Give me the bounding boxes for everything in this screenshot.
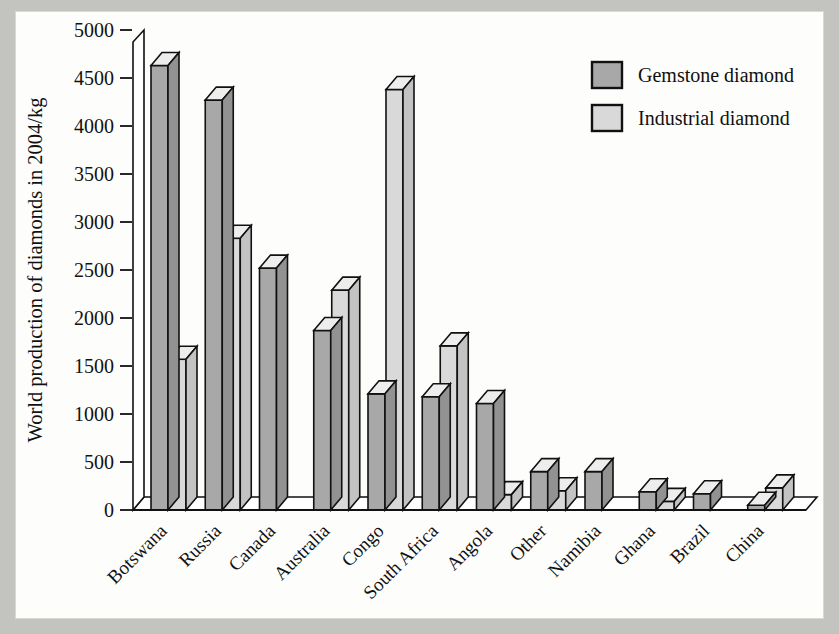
y-axis-tick-label: 2000 bbox=[74, 307, 114, 329]
y-axis-tick-label: 1500 bbox=[74, 355, 114, 377]
bar-front-face bbox=[314, 330, 331, 510]
bar-side-face bbox=[403, 77, 414, 510]
bar-front-face bbox=[151, 66, 168, 510]
bar-side-face bbox=[385, 381, 396, 510]
bar-side-face bbox=[494, 390, 505, 510]
bar-gemstone-6 bbox=[477, 390, 505, 510]
legend-label-gemstone-diamond: Gemstone diamond bbox=[638, 64, 794, 86]
bar-side-face bbox=[439, 384, 450, 510]
bar-side-face bbox=[168, 53, 179, 510]
x-axis-category-label: Other bbox=[505, 520, 551, 566]
bar-chart: 0500100015002000250030003500400045005000… bbox=[16, 12, 823, 618]
y-axis-tick-label: 5000 bbox=[74, 19, 114, 41]
y-axis-wall bbox=[133, 30, 144, 510]
bar-gemstone-1 bbox=[205, 87, 233, 510]
bar-side-face bbox=[240, 225, 251, 510]
bar-front-face bbox=[260, 268, 277, 510]
legend-label-industrial-diamond: Industrial diamond bbox=[638, 107, 790, 129]
bar-front-face bbox=[422, 397, 439, 510]
bar-gemstone-3 bbox=[314, 317, 342, 510]
x-axis-category-label: Angola bbox=[442, 520, 497, 575]
legend-swatch-industrial-diamond bbox=[592, 105, 622, 131]
x-axis-category-label: Russia bbox=[174, 520, 225, 571]
figure-page: 0500100015002000250030003500400045005000… bbox=[0, 0, 839, 634]
x-axis-category-label: China bbox=[721, 520, 768, 567]
bar-gemstone-4 bbox=[368, 381, 396, 510]
y-axis-tick-label: 4500 bbox=[74, 67, 114, 89]
bar-gemstone-8 bbox=[585, 459, 613, 510]
bar-gemstone-7 bbox=[531, 459, 559, 510]
x-axis-category-label: Botswana bbox=[103, 520, 171, 588]
bar-front-face bbox=[639, 492, 656, 510]
y-axis-tick-label: 500 bbox=[84, 451, 114, 473]
bar-side-face bbox=[277, 255, 288, 510]
bar-side-face bbox=[349, 277, 360, 510]
bar-side-face bbox=[457, 333, 468, 510]
x-axis-category-label: Ghana bbox=[609, 520, 659, 570]
bar-side-face bbox=[331, 317, 342, 510]
x-axis-category-label: Australia bbox=[269, 520, 333, 584]
x-axis-category-label: Brazil bbox=[666, 520, 714, 568]
y-axis-title: World production of diamonds in 2004/kg bbox=[24, 97, 47, 442]
y-axis-tick-label: 0 bbox=[104, 499, 114, 521]
bar-front-face bbox=[205, 100, 222, 510]
bar-front-face bbox=[368, 394, 385, 510]
figure-plate: 0500100015002000250030003500400045005000… bbox=[16, 12, 823, 618]
bar-front-face bbox=[585, 472, 602, 510]
bar-front-face bbox=[531, 472, 548, 510]
y-axis-tick-label: 3500 bbox=[74, 163, 114, 185]
chart-legend: Gemstone diamondIndustrial diamond bbox=[592, 62, 794, 131]
y-axis-tick-label: 2500 bbox=[74, 259, 114, 281]
bar-side-face bbox=[222, 87, 233, 510]
bar-gemstone-5 bbox=[422, 384, 450, 510]
legend-swatch-gemstone-diamond bbox=[592, 62, 622, 88]
bar-side-face bbox=[186, 346, 197, 510]
y-axis-tick-label: 3000 bbox=[74, 211, 114, 233]
bar-gemstone-2 bbox=[260, 255, 288, 510]
bar-gemstone-0 bbox=[151, 53, 179, 510]
y-axis-tick-label: 1000 bbox=[74, 403, 114, 425]
x-axis-category-label: Congo bbox=[337, 520, 388, 571]
y-axis-tick-label: 4000 bbox=[74, 115, 114, 137]
bar-front-face bbox=[694, 494, 711, 510]
x-axis-category-label: Namibia bbox=[544, 520, 606, 582]
bar-front-face bbox=[477, 403, 494, 510]
